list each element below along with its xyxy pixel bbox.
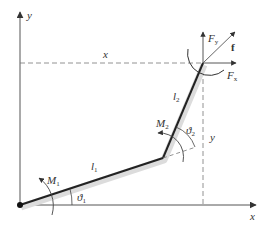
y-dimension-label: y bbox=[209, 131, 215, 143]
moment-2-label: M2 bbox=[155, 117, 169, 131]
force-y-label: Fy bbox=[207, 32, 219, 46]
manipulator-links bbox=[17, 63, 204, 208]
coordinate-axes: y x bbox=[20, 9, 256, 222]
manipulator-diagram: y x x y l1 l2 ϑ1 M1 ϑ2 M2 Fy Fx bbox=[0, 0, 272, 225]
link-1-label: l1 bbox=[91, 160, 98, 174]
theta1-label: ϑ1 bbox=[77, 191, 86, 205]
end-effector-arc bbox=[188, 49, 224, 75]
x-dimension-label: x bbox=[102, 48, 108, 60]
moment-1-label: M1 bbox=[46, 174, 60, 188]
end-effector-forces: Fy Fx f bbox=[188, 32, 238, 83]
link-2 bbox=[163, 63, 203, 158]
x-axis-label: x bbox=[249, 210, 255, 222]
base-joint bbox=[17, 202, 23, 208]
theta2-label: ϑ2 bbox=[186, 124, 195, 138]
force-x-label: Fx bbox=[226, 69, 238, 83]
y-axis-label: y bbox=[26, 9, 32, 21]
force-vector-label: f bbox=[231, 41, 235, 53]
link-2-label: l2 bbox=[173, 90, 180, 104]
